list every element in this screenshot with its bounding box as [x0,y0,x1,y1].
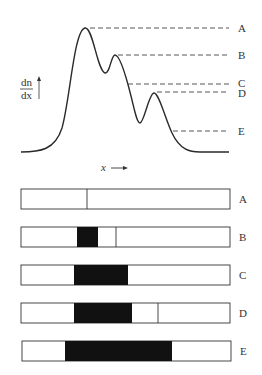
svg-text:x: x [100,161,106,173]
x-axis-label: x [100,161,128,173]
bar-c-fill [74,265,128,285]
level-label-d: D [238,87,246,99]
bar-label-e: E [240,345,247,357]
bar-d [21,303,230,323]
bar-e-fill [65,341,172,361]
bar-a [21,189,230,209]
bar-label-c: C [239,269,246,281]
y-axis-label: dn dx [20,76,41,101]
bar-b [21,227,230,247]
bar-d-fill [74,303,132,323]
bar-e [22,341,231,361]
bar-label-b: B [239,231,246,243]
level-lines [90,28,229,131]
svg-text:dx: dx [21,89,33,101]
level-label-e: E [238,125,245,137]
bar-label-a: A [239,193,247,205]
svg-text:dn: dn [21,76,33,88]
level-label-a: A [238,22,246,34]
distribution-curve [21,28,229,152]
level-label-b: B [238,49,245,61]
bar-b-fill [77,227,98,247]
bar-label-d: D [239,307,247,319]
bar-c [21,265,230,285]
distribution-diagram: A B C D E dn dx x A B C D [0,0,262,375]
